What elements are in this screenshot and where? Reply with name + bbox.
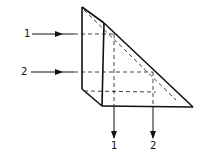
prism-outline — [82, 7, 193, 107]
prism-hidden-edges — [84, 10, 176, 100]
output-beam-1-label: 1 — [111, 141, 117, 151]
input-beam-2-label: 2 — [21, 67, 27, 77]
prism-diagram — [0, 0, 207, 160]
input-beam-1-label: 1 — [24, 29, 30, 39]
input-beam-arrows — [31, 34, 74, 72]
beam-paths-internal — [74, 34, 153, 106]
output-beam-2-label: 2 — [150, 141, 156, 151]
output-beam-arrows — [114, 107, 153, 138]
